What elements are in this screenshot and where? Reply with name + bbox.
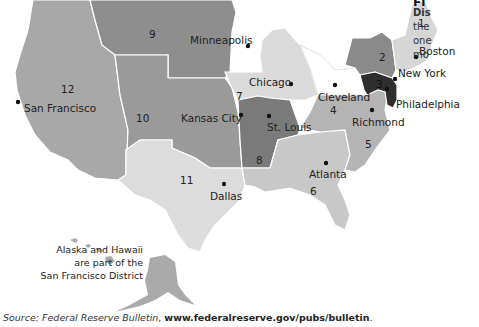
new-york-label: New York	[398, 67, 447, 79]
caption-line-1: the	[413, 20, 432, 34]
caption-line-2: one	[413, 34, 432, 48]
source-url[interactable]: www.federalreserve.gov/pubs/bulletin	[164, 312, 369, 323]
atlanta-label: Atlanta	[309, 168, 347, 180]
st-louis-label: St. Louis	[267, 121, 312, 133]
chicago-label: Chicago	[249, 76, 291, 88]
district-9-number: 9	[149, 28, 156, 40]
figure-caption: Fi Dis the one mo	[413, 0, 432, 62]
dallas-label: Dallas	[210, 190, 242, 202]
minneapolis-label: Minneapolis	[190, 34, 253, 46]
district-2-number: 2	[379, 51, 386, 63]
note-line-2: are part of the	[0, 256, 143, 269]
district-10-number: 10	[136, 112, 149, 124]
source-publication: Federal Reserve Bulletin	[42, 312, 158, 323]
richmond-dot	[370, 108, 374, 112]
caption-line-3: mo	[413, 48, 432, 62]
kansas-city-label: Kansas City	[181, 112, 242, 124]
district-12-number: 12	[61, 83, 74, 95]
district-5-number: 5	[365, 138, 372, 150]
district-4-number: 4	[330, 104, 337, 116]
st-louis-dot	[267, 114, 271, 118]
district-8-number: 8	[256, 154, 263, 166]
philadelphia-label: Philadelphia	[396, 98, 460, 110]
district-6-number: 6	[310, 185, 317, 197]
note-line-3: San Francisco District	[0, 269, 143, 282]
san-francisco-dot	[16, 100, 20, 104]
philadelphia-dot	[385, 87, 389, 91]
source-prefix: Source:	[3, 312, 42, 323]
source-line: Source: Federal Reserve Bulletin, www.fe…	[3, 312, 373, 323]
cleveland-label: Cleveland	[318, 91, 370, 103]
district-11-number: 11	[180, 174, 193, 186]
atlanta-dot	[324, 161, 328, 165]
new-york-dot	[393, 77, 397, 81]
alaska-hawaii-note: Alaska and Hawaii are part of the San Fr…	[0, 243, 143, 282]
source-suffix: .	[370, 312, 373, 323]
caption-subtitle: Dis	[413, 6, 432, 20]
san-francisco-label: San Francisco	[24, 102, 96, 114]
cleveland-dot	[333, 83, 337, 87]
district-3-number: 3	[376, 78, 383, 90]
note-line-1: Alaska and Hawaii	[0, 243, 143, 256]
district-7-number: 7	[236, 90, 243, 102]
richmond-label: Richmond	[352, 116, 405, 128]
dallas-dot	[222, 182, 226, 186]
